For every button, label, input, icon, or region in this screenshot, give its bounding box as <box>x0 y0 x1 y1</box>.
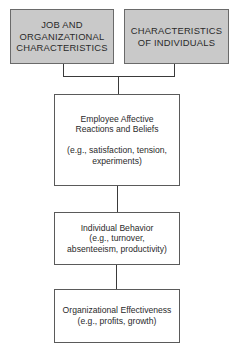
connector-stage-1-to-2 <box>117 186 118 212</box>
stage-example-line: experiments) <box>92 156 142 167</box>
connector-horizontal-bar <box>63 76 175 77</box>
box-label-line: ORGANIZATIONAL <box>20 31 105 43</box>
job-organizational-characteristics-box: JOB AND ORGANIZATIONAL CHARACTERISTICS <box>10 9 114 64</box>
stage-title-line: Reactions and Beliefs <box>75 124 158 135</box>
stage-title-line: Individual Behavior <box>81 223 154 234</box>
stage-example-line: absenteeism, productivity) <box>67 244 167 255</box>
box-label-line: JOB AND <box>41 19 83 31</box>
stage-example-line: (e.g., satisfaction, tension, <box>67 145 167 156</box>
organizational-effectiveness-box: Organizational Effectiveness (e.g., prof… <box>54 289 180 343</box>
stage-example-line: (e.g., profits, growth) <box>78 316 157 327</box>
stage-example-line: (e.g., turnover, <box>89 233 144 244</box>
box-label-line: CHARACTERISTICS <box>131 25 223 37</box>
individual-behavior-box: Individual Behavior (e.g., turnover, abs… <box>54 212 180 265</box>
connector-stage-2-to-3 <box>116 265 117 289</box>
characteristics-of-individuals-box: CHARACTERISTICS OF INDIVIDUALS <box>124 9 229 64</box>
stage-title-line: Employee Affective <box>81 114 154 125</box>
stage-title-line: Organizational Effectiveness <box>63 305 172 316</box>
box-label-line: CHARACTERISTICS <box>16 42 108 54</box>
employee-affective-reactions-box: Employee Affective Reactions and Beliefs… <box>54 94 180 186</box>
box-label-line: OF INDIVIDUALS <box>138 37 215 49</box>
connector-stem-to-stage-1 <box>118 76 119 94</box>
